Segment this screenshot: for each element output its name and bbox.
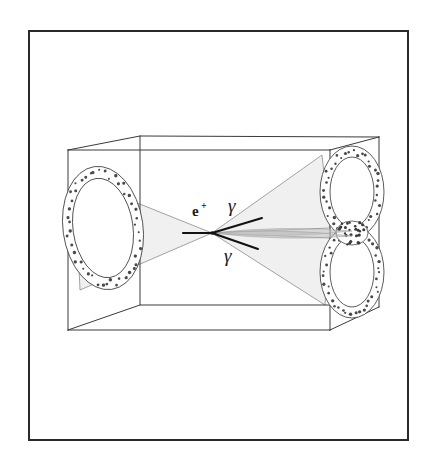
photon-hit-dot: [356, 154, 359, 157]
photon-hit-dot: [327, 177, 329, 179]
photon-hit-dot: [375, 278, 378, 281]
photon-hit-dot: [368, 160, 370, 162]
photon-hit-dot: [374, 199, 377, 202]
photon-hit-dot: [374, 254, 377, 257]
cherenkov-ring-right-lower-inner-edge: [330, 237, 374, 307]
photon-hit-dot: [376, 172, 379, 175]
photon-hit-dot: [325, 200, 327, 202]
photon-hit-dot: [377, 291, 379, 293]
photon-hit-dot: [323, 270, 325, 272]
photon-hit-dot: [374, 169, 377, 172]
photon-hit-dot: [325, 264, 328, 267]
label-gamma-upper: γ: [228, 195, 236, 216]
photon-hit-dot: [322, 274, 325, 277]
photon-hit-dot: [346, 222, 349, 225]
photon-hit-dot: [337, 306, 340, 309]
photon-hit-dot: [340, 157, 342, 159]
photon-hit-dot: [334, 163, 336, 165]
photon-hit-dot: [354, 225, 357, 228]
photon-hit-dot: [330, 167, 333, 170]
photon-hit-dot: [377, 260, 380, 263]
photon-hit-dot: [328, 206, 331, 209]
photon-hit-dot: [376, 194, 378, 196]
photon-hit-dot: [370, 295, 373, 298]
photon-hit-dot: [375, 286, 377, 288]
photon-hit-dot: [327, 215, 329, 217]
photon-hit-dot: [348, 151, 350, 153]
photon-hit-dot: [344, 232, 346, 234]
photon-hit-dot: [377, 267, 379, 269]
photon-hit-dot: [349, 313, 352, 316]
photon-hit-dot: [349, 240, 352, 243]
interaction-vertex: [210, 231, 214, 235]
photon-hit-dot: [358, 310, 361, 313]
photon-hit-dot: [361, 223, 364, 226]
photon-hit-dot: [357, 229, 360, 232]
photon-hit-dot: [341, 223, 343, 225]
photon-hit-dot: [376, 184, 379, 187]
photon-hit-dot: [322, 283, 325, 286]
photon-hit-dot: [333, 305, 335, 307]
photon-hit-dot: [325, 181, 328, 184]
photon-hit-dot: [371, 242, 374, 245]
photon-hit-dot: [368, 165, 371, 168]
photon-hit-dot: [377, 179, 380, 182]
photon-hit-dot: [331, 299, 334, 302]
cherenkov-ring-right-upper-inner-edge: [330, 157, 374, 227]
photon-hit-dot: [376, 213, 378, 215]
photon-hit-dot: [325, 170, 328, 173]
label-gamma-lower: γ: [224, 245, 232, 266]
figure-root: e+γγ: [0, 0, 429, 464]
cherenkov-detector-diagram: e+γγ: [0, 0, 429, 464]
photon-hit-dot: [358, 242, 361, 245]
photon-hit-dot: [336, 154, 339, 157]
photon-hit-dot: [361, 153, 364, 156]
photon-hit-dot: [344, 152, 347, 155]
photon-hit-dot: [348, 222, 350, 224]
photon-hit-dot: [327, 292, 330, 295]
photon-hit-dot: [358, 221, 361, 224]
photon-hit-dot: [357, 234, 359, 236]
photon-hit-dot: [367, 299, 370, 302]
photon-hit-dot: [368, 238, 371, 241]
photon-hit-dot: [344, 312, 346, 314]
photon-hit-dot: [342, 309, 345, 312]
photon-hit-dot: [322, 196, 325, 199]
label-positron: e: [192, 203, 199, 219]
photon-hit-dot: [333, 239, 336, 242]
photon-hit-dot: [322, 189, 325, 192]
photon-hit-dot: [328, 286, 330, 288]
photon-hit-dot: [365, 305, 368, 308]
photon-hit-dot: [362, 228, 365, 231]
photon-hit-dot: [344, 226, 347, 229]
photon-hit-dot: [324, 255, 326, 257]
photon-hit-dot: [368, 219, 370, 221]
photon-hit-dot: [378, 204, 381, 207]
photon-hit-dot: [346, 243, 348, 245]
photon-hit-dot: [378, 271, 380, 273]
photon-hit-dot: [330, 252, 333, 255]
photon-hit-dot: [332, 222, 335, 225]
photon-hit-dot: [353, 149, 355, 151]
photon-hit-dot: [363, 309, 366, 312]
photon-hit-dot: [375, 246, 379, 250]
label-positron-charge-superscript: +: [201, 200, 207, 211]
ring-overlap-region: [336, 221, 368, 246]
photon-hit-dot: [339, 226, 342, 229]
photon-hit-dot: [333, 216, 336, 219]
photon-hit-dot: [328, 246, 330, 248]
photon-hit-dot: [355, 311, 358, 314]
photon-hit-dot: [364, 154, 367, 157]
photon-hit-dot: [369, 215, 372, 218]
